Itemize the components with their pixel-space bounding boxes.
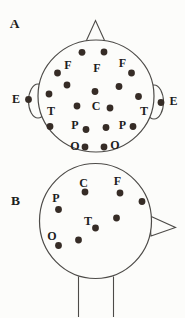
electrode-dot (101, 144, 108, 151)
region-label-o: O (110, 138, 119, 152)
electrode-dot (130, 123, 137, 130)
electrode-dot (64, 82, 71, 89)
region-label-f: F (119, 56, 126, 70)
electrode-dot (46, 91, 53, 98)
electrode-dot (82, 189, 89, 196)
electrode-dot (55, 242, 62, 249)
region-label-t: T (84, 214, 92, 228)
panel-label-b: B (11, 193, 20, 208)
region-label-f: F (93, 61, 100, 75)
electrode-dot (101, 49, 108, 56)
region-label-o: O (47, 229, 56, 243)
eeg-figure-svg: FFFEETCTPPOOACFPTOB (0, 0, 185, 318)
panel-a: FFFEETCTPPOOA (10, 16, 178, 153)
region-label-e: E (169, 94, 177, 108)
ear-electrode-dot (25, 96, 32, 103)
electrode-dot (135, 93, 142, 100)
region-label-e: E (12, 92, 20, 106)
electrode-dot (92, 88, 99, 95)
region-label-c: C (79, 176, 88, 190)
region-label-t: T (140, 104, 148, 118)
head-outline (40, 164, 152, 279)
region-label-f: F (64, 58, 71, 72)
ear-electrode-dot (158, 99, 165, 106)
region-label-p: P (119, 118, 126, 132)
electrode-dot (128, 70, 135, 77)
electrode-dot (74, 103, 81, 110)
electrode-dot (55, 206, 62, 213)
region-label-c: C (92, 99, 101, 113)
region-label-o: O (70, 139, 79, 153)
electrode-dot (82, 144, 89, 151)
electrode-dot (83, 126, 90, 133)
electrode-dot (107, 105, 114, 112)
panel-b: CFPTOB (11, 164, 176, 318)
region-label-p: P (71, 118, 78, 132)
eeg-electrode-figure: FFFEETCTPPOOACFPTOB (0, 0, 185, 318)
region-label-p: P (52, 191, 59, 205)
region-label-f: F (114, 174, 121, 188)
region-label-t: T (47, 104, 55, 118)
electrode-dot (103, 124, 110, 131)
electrode-dot (54, 70, 61, 77)
nose-outline (86, 21, 105, 42)
electrode-dot (47, 123, 54, 130)
electrode-dot (92, 225, 99, 232)
electrode-dot (116, 83, 123, 90)
electrode-dot (139, 198, 146, 205)
nose-outline (149, 216, 176, 237)
electrode-dot (75, 237, 82, 244)
panel-label-a: A (10, 16, 20, 31)
electrode-dot (117, 190, 124, 197)
electrode-dot (79, 49, 86, 56)
electrode-dot (113, 215, 120, 222)
